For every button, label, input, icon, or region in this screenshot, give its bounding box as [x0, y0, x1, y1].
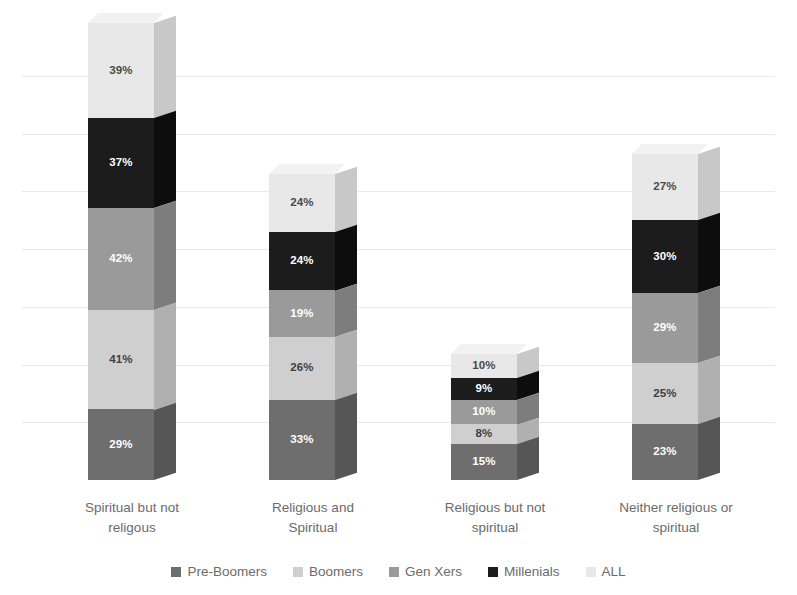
bar-segment[interactable]: 10%	[451, 354, 517, 378]
legend-swatch-icon	[488, 567, 498, 577]
legend-label: Pre-Boomers	[187, 564, 267, 579]
bar-segment[interactable]: 10%	[451, 400, 517, 424]
bar-segment-side	[154, 201, 176, 310]
bar-segment-side	[698, 417, 720, 480]
bar-segment[interactable]: 39%	[88, 23, 154, 118]
bar-segment-side	[154, 111, 176, 208]
bar-segment[interactable]: 25%	[632, 363, 698, 424]
category-label: Religious andSpiritual	[223, 498, 403, 537]
bar-segment[interactable]: 29%	[632, 293, 698, 364]
chart-legend: Pre-BoomersBoomersGen XersMillenialsALL	[0, 564, 797, 579]
legend-item[interactable]: Boomers	[293, 564, 363, 579]
legend-label: ALL	[602, 564, 626, 579]
category-label: Neither religious orspiritual	[586, 498, 766, 537]
legend-item[interactable]: ALL	[586, 564, 626, 579]
column-top-face	[451, 344, 527, 354]
bar-segment[interactable]: 8%	[451, 424, 517, 443]
bar-segment-value-label: 39%	[109, 65, 132, 77]
bar-segment-value-label: 9%	[476, 383, 493, 395]
bar-segment-value-label: 10%	[472, 360, 495, 372]
legend-label: Millenials	[504, 564, 560, 579]
column-top-face	[88, 13, 164, 23]
bar-segment-value-label: 10%	[472, 406, 495, 418]
bar-segment-value-label: 19%	[290, 308, 313, 320]
category-label-line: Spiritual	[223, 518, 403, 538]
column-front-face: 33%26%19%24%24%	[269, 174, 335, 480]
bar-segment[interactable]: 26%	[269, 337, 335, 400]
bar-segment[interactable]: 24%	[269, 174, 335, 232]
bar-segment[interactable]: 9%	[451, 378, 517, 400]
bar-segment-side	[335, 167, 357, 232]
bar-segment-value-label: 37%	[109, 157, 132, 169]
bar-segment-value-label: 8%	[476, 428, 493, 440]
bar-segment-value-label: 41%	[109, 354, 132, 366]
category-label-line: Religious and	[223, 498, 403, 518]
category-label: Spiritual but notreligous	[42, 498, 222, 537]
bar-segment-side	[154, 402, 176, 480]
stacked-column-chart: 29%41%42%37%39%33%26%19%24%24%15%8%10%9%…	[0, 0, 797, 595]
bar-segment[interactable]: 27%	[632, 154, 698, 220]
column-front-face: 29%41%42%37%39%	[88, 23, 154, 480]
legend-swatch-icon	[586, 567, 596, 577]
bar-segment-side	[335, 329, 357, 399]
column-side-face	[517, 346, 539, 480]
bar-segment-value-label: 33%	[290, 434, 313, 446]
bar-segment-value-label: 26%	[290, 362, 313, 374]
legend-label: Boomers	[309, 564, 363, 579]
category-label-line: religous	[42, 518, 222, 538]
bar-segment-side	[335, 393, 357, 480]
bar-segment[interactable]: 33%	[269, 400, 335, 480]
column-side-face	[698, 147, 720, 480]
bar-segment[interactable]: 30%	[632, 220, 698, 293]
bar-segment[interactable]: 23%	[632, 424, 698, 480]
bar-segment-side	[698, 356, 720, 424]
bar-segment-value-label: 24%	[290, 197, 313, 209]
bar-segment-side	[698, 286, 720, 364]
category-label-line: spiritual	[405, 518, 585, 538]
bar-segment-side	[517, 436, 539, 480]
category-label: Religious but notspiritual	[405, 498, 585, 537]
bar-segment[interactable]: 15%	[451, 444, 517, 480]
legend-item[interactable]: Millenials	[488, 564, 560, 579]
plot-area: 29%41%42%37%39%33%26%19%24%24%15%8%10%9%…	[0, 18, 797, 480]
bar-segment-side	[154, 16, 176, 118]
bar-segment[interactable]: 37%	[88, 118, 154, 208]
bar-segment-side	[335, 283, 357, 336]
bar-segment[interactable]: 42%	[88, 208, 154, 310]
category-label-line: spiritual	[586, 518, 766, 538]
column-top-face	[269, 164, 345, 174]
bar-segment-side	[698, 147, 720, 220]
legend-swatch-icon	[293, 567, 303, 577]
legend-item[interactable]: Pre-Boomers	[171, 564, 267, 579]
category-label-line: Spiritual but not	[42, 498, 222, 518]
bar-segment-value-label: 29%	[109, 439, 132, 451]
bar-segment-side	[335, 225, 357, 290]
bar-segment-value-label: 23%	[653, 446, 676, 458]
bar-segment-value-label: 25%	[653, 388, 676, 400]
bar-segment-side	[698, 213, 720, 293]
column-side-face	[154, 16, 176, 480]
bar-segment-value-label: 42%	[109, 253, 132, 265]
column-side-face	[335, 167, 357, 480]
bar-segment[interactable]: 19%	[269, 290, 335, 336]
bar-segment-value-label: 27%	[653, 181, 676, 193]
category-label-line: Neither religious or	[586, 498, 766, 518]
bar-segment-value-label: 15%	[472, 456, 495, 468]
bar-segment-value-label: 29%	[653, 322, 676, 334]
bar-segment[interactable]: 29%	[88, 409, 154, 480]
legend-label: Gen Xers	[405, 564, 462, 579]
legend-item[interactable]: Gen Xers	[389, 564, 462, 579]
legend-swatch-icon	[389, 567, 399, 577]
legend-swatch-icon	[171, 567, 181, 577]
bar-segment[interactable]: 24%	[269, 232, 335, 290]
bar-segment-value-label: 24%	[290, 255, 313, 267]
bar-segment-value-label: 30%	[653, 251, 676, 263]
bar-segment-side	[154, 303, 176, 410]
column-front-face: 23%25%29%30%27%	[632, 154, 698, 480]
column-top-face	[632, 144, 708, 154]
bar-segment[interactable]: 41%	[88, 310, 154, 410]
category-label-line: Religious but not	[405, 498, 585, 518]
column-front-face: 15%8%10%9%10%	[451, 354, 517, 480]
